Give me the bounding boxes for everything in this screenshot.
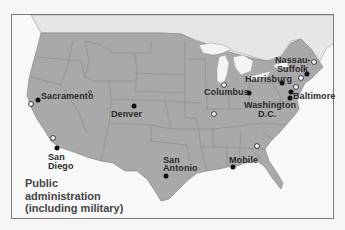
label-sacramento: Sacramento [41, 92, 94, 101]
label-mobile: Mobile [229, 156, 258, 165]
label-san-diego-line2: Diego [48, 162, 74, 171]
open-circle-icon [255, 144, 260, 149]
sacramento-marker [36, 98, 41, 103]
label-columbus: Columbus [204, 88, 249, 97]
san-antonio-marker [164, 174, 169, 179]
mobile-marker [231, 165, 236, 170]
san-diego-marker [55, 146, 60, 151]
label-nassau-suffolk-line2: Suffolk [277, 65, 308, 74]
caption-line-3: (including military) [25, 202, 123, 215]
open-circle-icon [299, 76, 304, 81]
open-circle-icon [51, 136, 56, 141]
open-circle-icon [312, 60, 317, 65]
open-circle-icon [212, 112, 217, 117]
label-denver: Denver [111, 110, 142, 119]
caption-line-1: Public [25, 177, 123, 190]
label-baltimore: Baltimore [293, 92, 335, 101]
map-caption: Public administration (including militar… [25, 177, 123, 215]
caption-line-2: administration [25, 190, 123, 203]
label-washington-line2: D.C. [258, 110, 276, 119]
label-san-antonio-line2: Antonio [163, 164, 198, 173]
label-harrisburg: Harrisburg [245, 75, 292, 84]
denver-marker [132, 104, 137, 109]
open-circle-icon [294, 85, 299, 90]
open-circle-icon [29, 102, 34, 107]
